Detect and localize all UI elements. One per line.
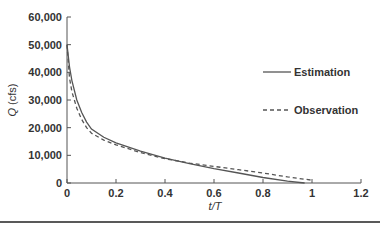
series-observation: [67, 45, 312, 181]
x-axis-title: t/T: [209, 200, 223, 212]
x-tick-label: 0.8: [255, 187, 270, 199]
y-axis-title: Q (cfs): [6, 83, 18, 116]
y-tick-label: 0: [56, 177, 62, 189]
x-tick-label: 1.2: [353, 187, 368, 199]
x-tick-label: 1: [309, 187, 315, 199]
x-tick-label: 0.6: [206, 187, 221, 199]
y-tick-label: 50,000: [28, 39, 62, 51]
legend: EstimationObservation: [263, 66, 358, 116]
y-tick-label: 40,000: [28, 66, 62, 78]
series-lines: [67, 45, 312, 183]
chart: 010,00020,00030,00040,00050,00060,000 00…: [0, 0, 380, 225]
y-tick-label: 60,000: [28, 11, 62, 23]
x-tick-label: 0: [64, 187, 70, 199]
y-axis: 010,00020,00030,00040,00050,00060,000: [28, 11, 71, 189]
y-tick-label: 20,000: [28, 122, 62, 134]
y-tick-label: 10,000: [28, 149, 62, 161]
x-tick-label: 0.4: [157, 187, 173, 199]
x-axis: 00.20.40.60.811.2: [64, 179, 369, 199]
legend-label-estimation: Estimation: [294, 66, 351, 78]
x-tick-label: 0.2: [108, 187, 123, 199]
y-tick-label: 30,000: [28, 94, 62, 106]
legend-label-observation: Observation: [294, 104, 358, 116]
